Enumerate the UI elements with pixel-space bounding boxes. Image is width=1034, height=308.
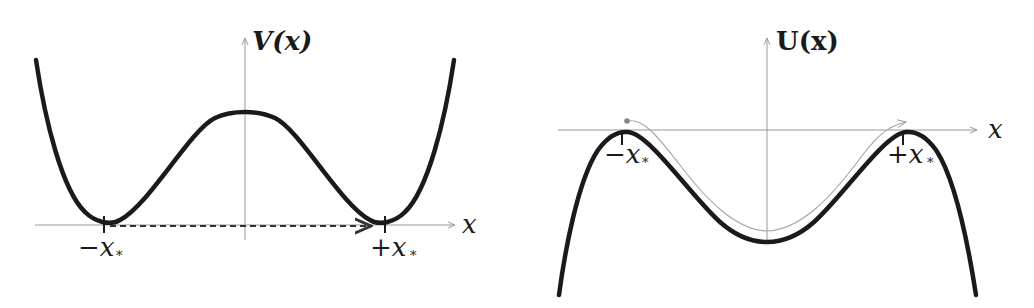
- right-x-axis-label: x: [988, 114, 1003, 144]
- right-plus-x-star-label: +x: [887, 139, 924, 169]
- left-plus-subscript: *: [410, 248, 417, 263]
- right-panel: U(x) x −x * +x *: [558, 26, 1003, 295]
- left-plus-x-star-label: +x: [370, 232, 407, 262]
- left-panel: V(x) x −x * +x *: [35, 26, 477, 263]
- right-plus-subscript: *: [927, 155, 934, 170]
- right-minus-x-star-label: −x: [604, 139, 641, 169]
- right-minus-subscript: *: [642, 155, 649, 170]
- right-y-axis-label: U(x): [776, 26, 839, 56]
- left-x-axis-label: x: [462, 209, 477, 239]
- figure: V(x) x −x * +x * U(x) x −x * +x *: [0, 0, 1034, 308]
- right-trajectory-start-dot: [624, 118, 630, 124]
- left-minus-subscript: *: [116, 248, 123, 263]
- left-y-axis-label: V(x): [252, 26, 312, 56]
- left-minus-x-star-label: −x: [78, 232, 115, 262]
